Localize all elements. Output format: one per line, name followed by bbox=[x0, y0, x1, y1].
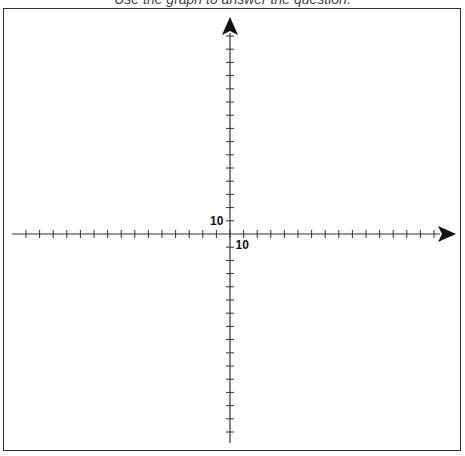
y-axis-scale-label: 10 bbox=[210, 214, 224, 228]
y-axis-arrow-icon bbox=[222, 17, 238, 35]
x-axis-scale-label: 10 bbox=[236, 238, 250, 252]
axes bbox=[12, 33, 440, 443]
coordinate-plane: 10 10 bbox=[0, 0, 465, 456]
x-axis-arrow-icon bbox=[438, 226, 456, 242]
